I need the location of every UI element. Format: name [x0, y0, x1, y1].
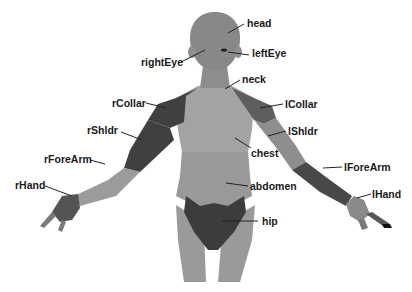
label-abdomen: abdomen [250, 180, 297, 192]
l-finger-1 [358, 218, 368, 230]
label-right-eye: rightEye [141, 56, 183, 68]
label-r-collar: rCollar [112, 97, 146, 109]
head-shape [190, 12, 240, 70]
r-shldr-shape [124, 120, 174, 172]
label-l-collar: lCollar [285, 98, 318, 110]
label-r-hand: rHand [15, 179, 45, 191]
label-l-shldr: lShldr [288, 125, 318, 137]
label-r-shldr: rShldr [87, 124, 118, 136]
leader-l-hand [357, 194, 371, 198]
l-forearm-shape [292, 162, 352, 206]
r-finger-1 [40, 212, 56, 228]
leader-r-forearm [90, 160, 105, 164]
leader-l-forearm [323, 167, 342, 168]
r-forearm-shape [74, 168, 140, 206]
label-chest: chest [251, 147, 278, 159]
leader-r-hand [45, 186, 72, 196]
label-r-forearm: rForeArm [44, 153, 92, 165]
r-finger-2 [58, 220, 66, 232]
label-l-hand: lHand [372, 188, 401, 200]
label-left-eye: leftEye [252, 47, 286, 59]
r-hand-shape [52, 194, 80, 222]
l-fingertip [382, 224, 392, 228]
left-ear-shape [234, 46, 242, 58]
left-eye-shape [221, 49, 227, 52]
label-hip: hip [262, 215, 278, 227]
label-neck: neck [242, 73, 266, 85]
label-head: head [247, 17, 272, 29]
body-segmentation-figure [0, 0, 412, 292]
label-l-forearm: lForeArm [344, 161, 391, 173]
